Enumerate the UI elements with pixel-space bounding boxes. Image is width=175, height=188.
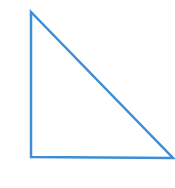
canvas-background: [0, 0, 175, 188]
drawing-canvas: [0, 0, 175, 188]
figure-canvas-svg: [0, 0, 175, 188]
